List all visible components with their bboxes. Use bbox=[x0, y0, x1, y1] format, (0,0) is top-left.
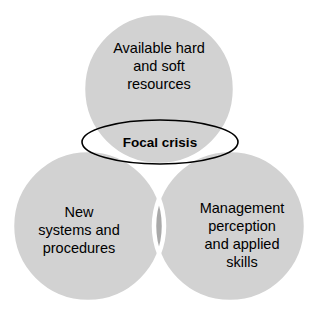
label-resources-line-2: and soft bbox=[133, 58, 185, 74]
venn-diagram-root: Available hard and soft resources Focal … bbox=[0, 0, 319, 313]
label-management-line-4: skills bbox=[226, 254, 257, 270]
label-management-line-2: perception bbox=[208, 218, 276, 234]
label-resources-line-1: Available hard bbox=[113, 40, 205, 56]
label-resources-line-3: resources bbox=[127, 76, 191, 92]
venn-diagram-svg: Available hard and soft resources Focal … bbox=[0, 0, 319, 313]
label-systems-line-1: New bbox=[64, 204, 94, 220]
label-management-line-1: Management bbox=[200, 200, 285, 216]
label-management-line-3: and applied bbox=[205, 236, 280, 252]
label-systems-line-2: systems and bbox=[38, 222, 119, 238]
label-systems-line-3: procedures bbox=[43, 240, 116, 256]
focal-crisis-label: Focal crisis bbox=[123, 135, 197, 150]
